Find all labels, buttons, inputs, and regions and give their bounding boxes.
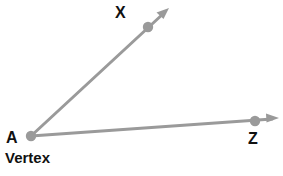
- ray-point-z-dot-icon: [250, 116, 260, 126]
- vertex-point-a-dot-icon: [26, 131, 36, 141]
- ray-az: [31, 114, 279, 137]
- angle-diagram: X Z A Vertex: [0, 0, 283, 176]
- ray-point-x-dot-icon: [143, 22, 153, 32]
- ray-az-arrowhead-icon: [266, 114, 279, 123]
- vertex-label-a: A: [6, 130, 18, 146]
- ray-az-line: [31, 119, 272, 136]
- vertex-caption: Vertex: [5, 150, 50, 165]
- ray-ax-line: [31, 13, 164, 136]
- ray-label-z: Z: [248, 131, 258, 147]
- ray-label-x: X: [115, 5, 126, 21]
